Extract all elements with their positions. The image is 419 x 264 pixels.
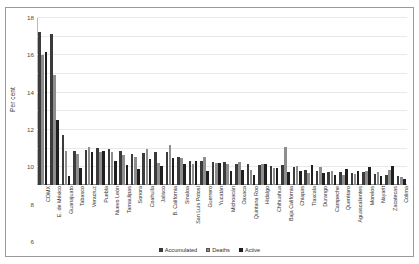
bar-group: [106, 17, 118, 185]
bar-group: [257, 17, 269, 185]
x-axis-tick-label: Sonora: [137, 186, 143, 203]
legend-swatch-icon: [159, 248, 163, 252]
bar-group: [291, 17, 303, 185]
y-axis-tick-label: 6: [31, 238, 34, 245]
bar: [218, 163, 221, 185]
x-axis-tick-label: San Luis Potosí: [195, 186, 201, 224]
bar: [137, 169, 140, 185]
x-axis-tick-label: E. de México: [56, 186, 62, 217]
bar: [195, 161, 198, 185]
bar-group: [176, 17, 188, 185]
bar: [368, 167, 371, 185]
bar: [56, 120, 59, 185]
bar-group: [361, 17, 373, 185]
chart-legend: AccumulatedDeathsActive: [0, 247, 419, 253]
x-axis-tick-label: Michoacán: [230, 186, 236, 212]
chart-figure: Per cent 024681012141618 CDMXE. de Méxic…: [0, 0, 419, 264]
legend-label: Accumulated: [165, 247, 197, 253]
bar: [311, 165, 314, 185]
bar-group: [395, 17, 407, 185]
legend-label: Deaths: [212, 247, 230, 253]
x-axis-tick-label: Oaxaca: [241, 186, 247, 205]
bar-group: [303, 17, 315, 185]
x-axis-tick-label: Yucatán: [218, 186, 224, 205]
bar: [357, 171, 360, 185]
x-axis-tick-labels: CDMXE. de MéxicoGuanajuatoTabascoVeracru…: [37, 186, 407, 246]
bar: [264, 164, 267, 185]
y-axis-title: Per cent: [9, 70, 16, 130]
bar-group: [280, 17, 292, 185]
y-axis-tick-label: 10: [27, 163, 34, 170]
x-axis-tick-label: Quintana Roo: [253, 186, 259, 219]
bar: [334, 175, 337, 185]
bar-group: [95, 17, 107, 185]
bar-group: [349, 17, 361, 185]
x-axis-tick-label: Chiapas: [299, 186, 305, 206]
x-axis-tick-label: Coahuila: [149, 186, 155, 207]
x-axis-tick-label: Colima: [403, 186, 409, 203]
bar-group: [245, 17, 257, 185]
y-axis-tick-label: 16: [27, 51, 34, 58]
legend-item[interactable]: Deaths: [206, 247, 230, 253]
legend-swatch-icon: [239, 248, 243, 252]
bar: [45, 52, 48, 185]
bar: [126, 165, 129, 185]
bar-series-container: [37, 17, 407, 185]
y-axis-tick-label: 18: [27, 14, 34, 21]
x-axis-tick-label: Sinaloa: [184, 186, 190, 204]
bar-group: [210, 17, 222, 185]
x-axis-tick-label: Morelos: [369, 186, 375, 205]
bar-group: [187, 17, 199, 185]
x-axis-tick-label: Guanajuato: [68, 186, 74, 214]
bar: [230, 171, 233, 185]
bar: [183, 164, 186, 185]
bar-group: [268, 17, 280, 185]
bar-group: [72, 17, 84, 185]
x-axis-tick-label: Nayarit: [380, 186, 386, 203]
x-axis-tick-label: Baja California: [288, 186, 294, 221]
bar-group: [37, 17, 49, 185]
bar: [345, 169, 348, 185]
x-axis-tick-label: Tamaulipas: [126, 186, 132, 213]
x-axis-tick-label: Hidalgo: [264, 186, 270, 204]
x-axis-tick-label: Durango: [322, 186, 328, 207]
bar-group: [153, 17, 165, 185]
legend-item[interactable]: Active: [239, 247, 260, 253]
x-axis-tick-label: Tlaxcala: [311, 186, 317, 206]
y-axis-tick-label: 12: [27, 126, 34, 133]
bar-group: [222, 17, 234, 185]
bar-group: [326, 17, 338, 185]
plot-area: 024681012141618: [37, 17, 407, 185]
x-axis-tick-label: Puebla: [103, 186, 109, 203]
bar: [172, 158, 175, 185]
legend-label: Active: [245, 247, 260, 253]
x-axis-tick-label: Chihuahua: [276, 186, 282, 212]
bar-group: [83, 17, 95, 185]
bar-group: [199, 17, 211, 185]
bar: [91, 152, 94, 185]
bar: [253, 175, 256, 185]
bar-group: [118, 17, 130, 185]
y-axis-tick-label: 8: [31, 200, 34, 207]
bar-group: [130, 17, 142, 185]
bar: [206, 171, 209, 185]
bar-group: [234, 17, 246, 185]
x-axis-tick-label: Guerrero: [207, 186, 213, 208]
bar-group: [49, 17, 61, 185]
bar: [380, 176, 383, 185]
x-axis-tick-label: Campeche: [334, 186, 340, 212]
bar: [403, 179, 406, 185]
legend-swatch-icon: [206, 248, 210, 252]
bar: [160, 166, 163, 185]
bar-group: [60, 17, 72, 185]
legend-item[interactable]: Accumulated: [159, 247, 197, 253]
bar: [276, 168, 279, 185]
bar: [299, 171, 302, 185]
bar: [322, 173, 325, 185]
x-axis-tick-label: CDMX: [45, 186, 51, 202]
bar: [149, 159, 152, 185]
bar: [68, 176, 71, 185]
x-axis-tick-label: Aguascalientes: [357, 186, 363, 223]
x-axis-tick-label: Zacatecas: [392, 186, 398, 211]
x-axis-tick-label: Nuevo León: [114, 186, 120, 215]
